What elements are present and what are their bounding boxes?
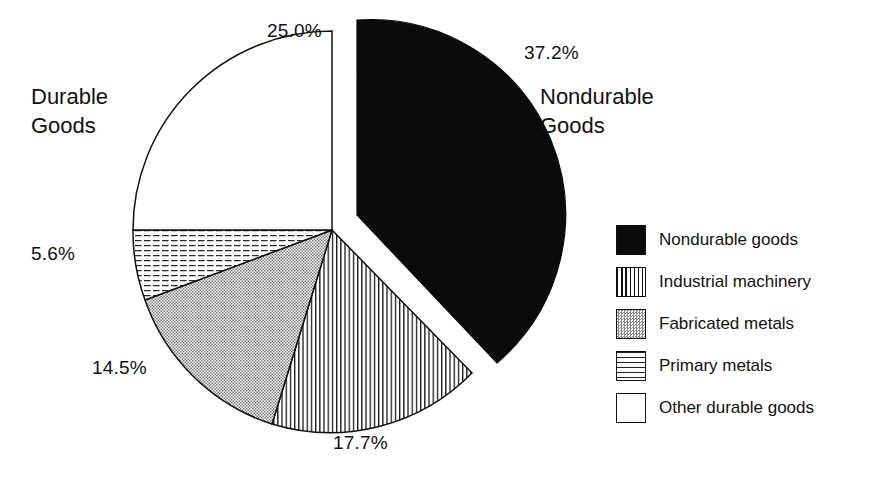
- legend-swatch-primary-metals: [616, 351, 646, 381]
- slice-value-fabricated-metals: 14.5%: [92, 357, 147, 379]
- pie-chart-figure: 37.2% 17.7% 14.5% 5.6% 25.0% Nondurable …: [0, 0, 877, 478]
- group-label-durable-line2: Goods: [31, 111, 108, 140]
- group-label-nondurable-line2: Goods: [540, 111, 654, 140]
- slice-value-nondurable-goods: 37.2%: [524, 42, 579, 64]
- legend-item-primary-metals[interactable]: Primary metals: [616, 345, 814, 387]
- legend-label-primary-metals: Primary metals: [659, 356, 772, 376]
- legend-item-fabricated-metals[interactable]: Fabricated metals: [616, 303, 814, 345]
- legend-label-industrial-machinery: Industrial machinery: [659, 272, 811, 292]
- legend-item-other-durable-goods[interactable]: Other durable goods: [616, 387, 814, 429]
- legend-item-industrial-machinery[interactable]: Industrial machinery: [616, 261, 814, 303]
- legend-label-fabricated-metals: Fabricated metals: [659, 314, 794, 334]
- chart-legend: Nondurable goods Industrial machinery Fa…: [616, 219, 814, 429]
- legend-swatch-nondurable-goods: [616, 225, 646, 255]
- legend-swatch-other-durable-goods: [616, 393, 646, 423]
- legend-label-other-durable-goods: Other durable goods: [659, 398, 814, 418]
- slice-value-industrial-machinery: 17.7%: [333, 432, 388, 454]
- legend-swatch-fabricated-metals: [616, 309, 646, 339]
- slice-value-other-durable-goods: 25.0%: [267, 20, 322, 42]
- slice-value-primary-metals: 5.6%: [31, 243, 75, 265]
- group-label-durable-goods: Durable Goods: [31, 82, 108, 140]
- legend-swatch-industrial-machinery: [616, 267, 646, 297]
- legend-item-nondurable-goods[interactable]: Nondurable goods: [616, 219, 814, 261]
- group-label-durable-line1: Durable: [31, 82, 108, 111]
- group-label-nondurable-goods: Nondurable Goods: [540, 82, 654, 140]
- legend-label-nondurable-goods: Nondurable goods: [659, 230, 798, 250]
- group-label-nondurable-line1: Nondurable: [540, 82, 654, 111]
- pie-slice-other-durable-goods[interactable]: [133, 31, 332, 230]
